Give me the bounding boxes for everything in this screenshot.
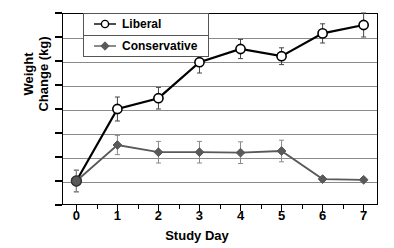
y-axis-tick bbox=[55, 132, 62, 134]
y-axis-tick bbox=[55, 12, 62, 14]
x-axis-tick-label: 5 bbox=[267, 208, 297, 223]
legend-item-liberal: Liberal bbox=[84, 14, 208, 35]
x-axis-minor-tick bbox=[179, 205, 180, 209]
legend-item-conservative: Conservative bbox=[84, 35, 208, 57]
weight-change-line-chart: Weight Change (kg) Liberal Conservative … bbox=[0, 0, 394, 248]
x-axis-minor-tick bbox=[220, 205, 221, 209]
x-axis-tick-label: 1 bbox=[102, 208, 132, 223]
x-axis-tick-label: 7 bbox=[349, 208, 379, 223]
y-axis-tick bbox=[55, 180, 62, 182]
y-axis-tick bbox=[55, 84, 62, 86]
y-axis-title-line-2: Change (kg) bbox=[36, 36, 51, 111]
y-axis-tick bbox=[55, 108, 62, 110]
legend-label-conservative: Conservative bbox=[122, 39, 197, 53]
x-axis-minor-tick bbox=[302, 205, 303, 209]
y-axis-tick bbox=[55, 204, 62, 206]
x-axis-tick-label: 6 bbox=[308, 208, 338, 223]
y-axis-title-line-1: Weight bbox=[21, 52, 36, 95]
open-circle-marker-icon bbox=[93, 18, 117, 30]
chart-legend: Liberal Conservative bbox=[83, 13, 209, 57]
y-axis-tick bbox=[55, 156, 62, 158]
gridline bbox=[63, 110, 377, 111]
x-axis-tick-label: 3 bbox=[184, 208, 214, 223]
y-axis-title: Weight Change (kg) bbox=[16, 0, 56, 154]
x-axis-tick-label: 0 bbox=[61, 208, 91, 223]
gridline bbox=[63, 182, 377, 183]
x-axis-tick-label: 2 bbox=[143, 208, 173, 223]
gridline bbox=[63, 134, 377, 135]
x-axis-minor-tick bbox=[138, 205, 139, 209]
x-axis-tick-label: 4 bbox=[226, 208, 256, 223]
filled-diamond-marker-icon bbox=[93, 40, 117, 52]
y-axis-tick bbox=[55, 36, 62, 38]
x-axis-minor-tick bbox=[97, 205, 98, 209]
x-axis-minor-tick bbox=[343, 205, 344, 209]
gridline bbox=[63, 62, 377, 63]
gridline bbox=[63, 158, 377, 159]
x-axis-title: Study Day bbox=[0, 228, 394, 243]
y-axis-tick bbox=[55, 60, 62, 62]
gridline bbox=[63, 86, 377, 87]
legend-label-liberal: Liberal bbox=[122, 17, 161, 31]
x-axis-minor-tick bbox=[261, 205, 262, 209]
